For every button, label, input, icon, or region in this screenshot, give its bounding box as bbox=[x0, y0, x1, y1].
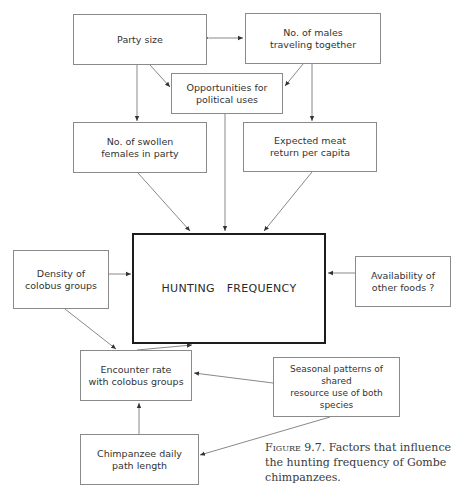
edge-party-political bbox=[150, 65, 170, 87]
node-swollen-females: No. of swollen females in party bbox=[73, 122, 207, 173]
node-encounter-rate: Encounter rate with colobus groups bbox=[80, 350, 192, 401]
node-party-size: Party size bbox=[73, 14, 207, 65]
node-males-traveling-together: No. of males traveling together bbox=[245, 13, 381, 64]
edge-density-encounter bbox=[65, 309, 116, 349]
edge-meat-hunting bbox=[264, 172, 312, 231]
node-opportunities-political-uses: Opportunities for political uses bbox=[171, 73, 283, 114]
node-expected-meat-return: Expected meat return per capita bbox=[243, 122, 377, 172]
node-daily-path-length: Chimpanzee daily path length bbox=[80, 434, 199, 485]
diagram-canvas: Party size No. of males traveling togeth… bbox=[0, 0, 462, 503]
node-hunting-frequency: HUNTING FREQUENCY bbox=[132, 233, 326, 344]
edge-seasonal-encounter bbox=[194, 373, 273, 383]
figure-caption: Figure 9.7. Factors that influence the h… bbox=[265, 440, 460, 485]
node-colobus-density: Density of colobus groups bbox=[13, 250, 109, 309]
node-availability-other-foods: Availability of other foods ? bbox=[355, 256, 451, 307]
edge-swollen-hunting bbox=[138, 173, 190, 231]
figure-label: Figure 9.7. bbox=[265, 441, 325, 454]
edge-males-political bbox=[285, 64, 303, 86]
node-seasonal-patterns: Seasonal patterns of shared resource use… bbox=[273, 357, 400, 417]
